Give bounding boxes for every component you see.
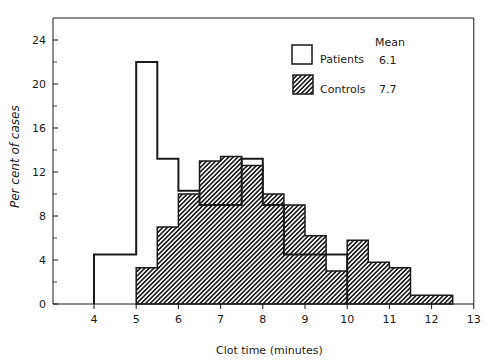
y-tick-label: 16: [32, 122, 46, 135]
x-tick-label: 7: [217, 313, 224, 326]
x-tick-label: 9: [302, 313, 309, 326]
x-tick-label: 5: [133, 313, 140, 326]
legend: Mean Patients 6.1 Controls 7.7: [292, 36, 405, 96]
legend-mean-controls: 7.7: [379, 83, 397, 96]
x-tick-label: 6: [175, 313, 182, 326]
legend-label-controls: Controls: [320, 83, 366, 96]
y-tick-label: 20: [32, 78, 46, 91]
histogram-chart: 4567891011121304812162024 Mean Patients …: [0, 0, 492, 360]
legend-label-patients: Patients: [320, 53, 364, 66]
x-tick-label: 11: [382, 313, 396, 326]
y-tick-label: 12: [32, 166, 46, 179]
y-tick-label: 0: [39, 298, 46, 311]
y-axis-title: Per cent of cases: [8, 105, 22, 208]
y-tick-label: 24: [32, 34, 46, 47]
legend-swatch-patients: [292, 45, 312, 64]
legend-header: Mean: [375, 36, 405, 49]
x-tick-label: 8: [259, 313, 266, 326]
y-tick-label: 8: [39, 210, 46, 223]
controls-histogram: [136, 157, 453, 304]
y-tick-label: 4: [39, 254, 46, 267]
legend-swatch-controls: [293, 75, 313, 94]
legend-mean-patients: 6.1: [379, 54, 397, 67]
x-tick-label: 10: [340, 313, 354, 326]
x-axis-title: Clot time (minutes): [216, 344, 323, 357]
x-tick-label: 12: [425, 313, 439, 326]
x-tick-label: 4: [91, 313, 98, 326]
x-tick-label: 13: [467, 313, 481, 326]
controls-series: [136, 157, 453, 304]
